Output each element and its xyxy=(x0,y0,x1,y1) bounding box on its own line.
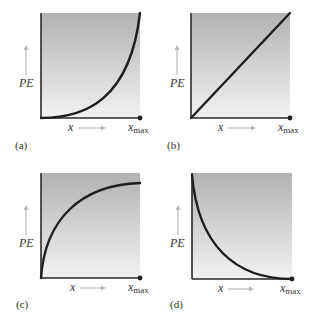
xmax-subscript: max xyxy=(283,125,299,135)
xmax-subscript: max xyxy=(133,285,149,295)
x-axis-label: x xyxy=(217,281,224,295)
xmax-label: xmax xyxy=(277,120,299,135)
xmax-subscript: max xyxy=(133,125,149,135)
xmax-label: xmax xyxy=(127,280,149,295)
xmax-label: xmax xyxy=(279,281,301,296)
panel-d: PExxmax(d) xyxy=(169,173,301,311)
up-arrow-icon xyxy=(24,205,29,210)
panel-label: (a) xyxy=(15,139,28,152)
pe-graphs-figure: PExxmax(a)PExxmax(b)PExxmax(c)PExxmax(d) xyxy=(0,0,313,329)
x-axis-label: x xyxy=(69,280,76,294)
xmax-label: xmax xyxy=(127,120,149,135)
y-axis-label: PE xyxy=(18,236,34,250)
panel-c: PExxmax(c) xyxy=(16,173,149,311)
xmax-dot xyxy=(138,276,143,281)
up-arrow-icon xyxy=(176,205,181,210)
plot-area xyxy=(192,173,292,279)
panel-label: (d) xyxy=(170,298,183,311)
y-axis-label: PE xyxy=(18,76,34,90)
xmax-dot xyxy=(290,277,295,282)
right-arrow-icon xyxy=(101,126,106,131)
xmax-dot xyxy=(138,116,143,121)
panel-a: PExxmax(a) xyxy=(15,13,149,152)
x-axis-label: x xyxy=(67,120,74,134)
panel-b: PExxmax(b) xyxy=(167,13,299,152)
y-axis-label: PE xyxy=(169,76,185,90)
right-arrow-icon xyxy=(249,287,254,292)
right-arrow-icon xyxy=(101,286,106,291)
up-arrow-icon xyxy=(175,45,180,50)
y-axis-label: PE xyxy=(169,236,185,250)
up-arrow-icon xyxy=(24,45,29,50)
plot-area xyxy=(41,13,140,118)
panel-label: (b) xyxy=(167,139,180,152)
xmax-subscript: max xyxy=(285,286,301,296)
x-axis-label: x xyxy=(217,120,224,134)
panel-label: (c) xyxy=(16,298,29,311)
xmax-dot xyxy=(288,116,293,121)
right-arrow-icon xyxy=(251,126,256,131)
